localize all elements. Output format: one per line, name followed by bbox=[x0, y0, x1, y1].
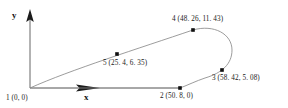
point-label-1: 1 (0, 0) bbox=[6, 95, 28, 102]
point-label-5: 5 (25. 4, 6. 35) bbox=[103, 60, 147, 67]
point-label-2: 2 (50. 8, 0) bbox=[160, 93, 193, 100]
point-marker-p2 bbox=[178, 86, 182, 90]
point-label-3: 3 (58. 42, 5. 08) bbox=[212, 75, 260, 82]
coordinate-diagram: y x 1 (0, 0) 2 (50. 8, 0) 3 (58. 42, 5. … bbox=[0, 0, 288, 108]
y-axis-label: y bbox=[12, 11, 17, 20]
point-label-4: 4 (48. 26, 11. 43) bbox=[172, 16, 223, 23]
point-marker-p5 bbox=[115, 52, 119, 56]
x-axis-label: x bbox=[84, 93, 89, 102]
point-marker-p3 bbox=[220, 68, 224, 72]
point-marker-p4 bbox=[191, 28, 195, 32]
diagram-canvas bbox=[0, 0, 288, 108]
